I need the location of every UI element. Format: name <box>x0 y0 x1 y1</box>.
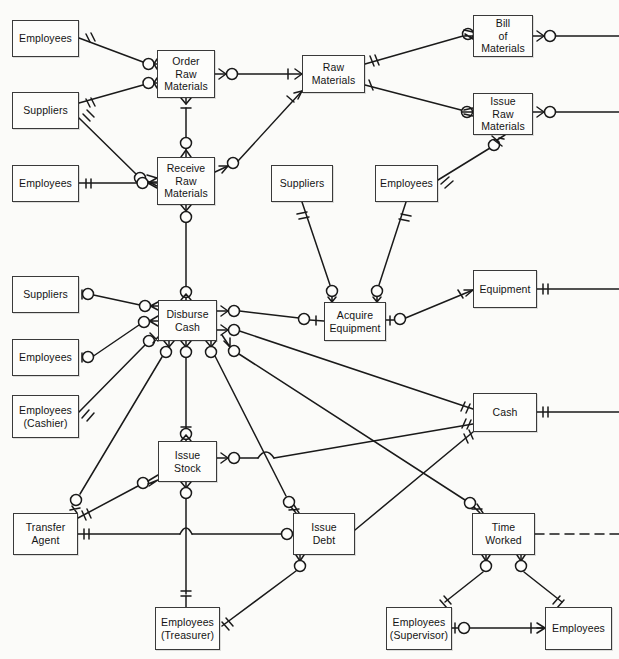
entity-label: Suppliers <box>21 104 70 117</box>
entity-label-line: Stock <box>172 462 203 475</box>
entity-label: Employees <box>378 177 435 190</box>
entity-label: OrderRawMaterials <box>162 55 210 93</box>
er-diagram-canvas: EmployeesOrderRawMaterialsRawMaterialsBi… <box>0 0 619 659</box>
entity-label-line: Suppliers <box>21 104 70 117</box>
entity-label: BillofMaterials <box>479 17 527 55</box>
entity-suppliers_disburse[interactable]: Suppliers <box>12 276 79 313</box>
entity-label-line: Issue <box>479 95 527 108</box>
entity-label-line: Employees <box>17 404 74 417</box>
entity-label-line: Materials <box>162 80 210 93</box>
entity-label-line: Issue <box>172 449 203 462</box>
entity-receive_raw_materials[interactable]: ReceiveRawMaterials <box>157 157 215 205</box>
entity-label-line: Raw <box>310 61 358 74</box>
entity-label-line: Cash <box>164 321 210 334</box>
entity-label: Employees <box>17 177 74 190</box>
entity-raw_materials[interactable]: RawMaterials <box>302 55 365 93</box>
entity-employees_subordinate[interactable]: Employees <box>545 607 612 650</box>
entity-time_worked[interactable]: TimeWorked <box>472 513 535 555</box>
entity-label-line: Materials <box>479 120 527 133</box>
entity-label-line: Agent <box>24 534 68 547</box>
entity-label: Employees <box>17 32 74 45</box>
entity-employees_supervisor[interactable]: Employees(Supervisor) <box>386 607 452 650</box>
entity-label-line: Disburse <box>164 308 210 321</box>
entity-cash[interactable]: Cash <box>473 393 537 432</box>
entity-label-line: (Treasurer) <box>159 629 216 642</box>
entity-label: IssueDebt <box>309 521 339 546</box>
entity-employees_treasurer[interactable]: Employees(Treasurer) <box>155 607 220 650</box>
entity-label-line: Bill <box>479 17 527 30</box>
entity-label-line: of <box>479 30 527 43</box>
entity-label: Employees <box>550 622 607 635</box>
entity-label-line: Employees <box>388 616 450 629</box>
entity-label-line: Employees <box>159 616 216 629</box>
entity-label: Employees(Treasurer) <box>159 616 216 641</box>
entity-label-line: Employees <box>378 177 435 190</box>
entity-label-line: Time <box>483 521 524 534</box>
entity-label-line: Issue <box>309 521 339 534</box>
entity-label-line: Suppliers <box>278 177 327 190</box>
entity-label-line: Materials <box>162 187 210 200</box>
entity-label-line: Worked <box>483 534 524 547</box>
entity-equipment[interactable]: Equipment <box>473 270 537 308</box>
entity-label-line: (Supervisor) <box>388 629 450 642</box>
entity-label-line: Materials <box>479 42 527 55</box>
entity-label: TransferAgent <box>24 521 68 546</box>
entity-label-line: Raw <box>479 108 527 121</box>
entity-label: Suppliers <box>278 177 327 190</box>
entity-label: Equipment <box>477 283 532 296</box>
entity-employees_receive[interactable]: Employees <box>12 165 79 202</box>
entity-transfer_agent[interactable]: TransferAgent <box>13 513 78 555</box>
entity-label: IssueRawMaterials <box>479 95 527 133</box>
entity-label-line: Employees <box>17 351 74 364</box>
entity-label: Employees(Cashier) <box>17 404 74 429</box>
entity-label-line: Debt <box>309 534 339 547</box>
entity-label: RawMaterials <box>310 61 358 86</box>
entity-label-line: Receive <box>162 162 210 175</box>
entity-suppliers_order[interactable]: Suppliers <box>12 92 79 129</box>
entity-label-line: Materials <box>310 74 358 87</box>
entity-label: ReceiveRawMaterials <box>162 162 210 200</box>
entity-label: TimeWorked <box>483 521 524 546</box>
entity-label: DisburseCash <box>164 308 210 333</box>
entity-label-line: (Cashier) <box>17 417 74 430</box>
entity-employees_cashier[interactable]: Employees(Cashier) <box>12 395 79 438</box>
entity-label-line: Suppliers <box>21 288 70 301</box>
entity-label-line: Cash <box>491 406 520 419</box>
entity-label-line: Raw <box>162 68 210 81</box>
entity-acquire_equipment[interactable]: AcquireEquipment <box>324 302 386 341</box>
entity-bill_of_materials[interactable]: BillofMaterials <box>473 15 533 57</box>
entity-label-line: Acquire <box>327 309 382 322</box>
entity-employees_acquire[interactable]: Employees <box>375 165 438 202</box>
entity-suppliers_acquire[interactable]: Suppliers <box>271 165 333 202</box>
entity-label-line: Raw <box>162 175 210 188</box>
entity-label: Cash <box>491 406 520 419</box>
entity-label-line: Employees <box>17 177 74 190</box>
entity-label-line: Employees <box>550 622 607 635</box>
entity-employees_disburse[interactable]: Employees <box>12 339 79 376</box>
entity-label: Employees(Supervisor) <box>388 616 450 641</box>
entity-label-line: Employees <box>17 32 74 45</box>
entity-issue_stock[interactable]: IssueStock <box>158 441 217 482</box>
entity-label-line: Transfer <box>24 521 68 534</box>
entity-label: Suppliers <box>21 288 70 301</box>
entity-label: AcquireEquipment <box>327 309 382 334</box>
entity-disburse_cash[interactable]: DisburseCash <box>158 300 217 341</box>
entity-issue_debt[interactable]: IssueDebt <box>293 513 355 555</box>
entity-label: IssueStock <box>172 449 203 474</box>
entity-issue_raw_materials[interactable]: IssueRawMaterials <box>473 93 533 135</box>
entity-label-line: Equipment <box>327 322 382 335</box>
entity-employees_order[interactable]: Employees <box>12 20 79 57</box>
entity-label-line: Equipment <box>477 283 532 296</box>
entity-label: Employees <box>17 351 74 364</box>
entity-order_raw_materials[interactable]: OrderRawMaterials <box>157 50 215 98</box>
entity-label-line: Order <box>162 55 210 68</box>
